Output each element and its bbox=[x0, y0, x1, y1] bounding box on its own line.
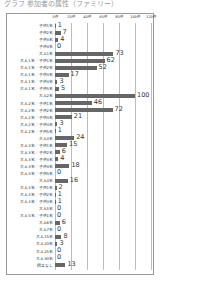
category-label: 大人1名／子供1名 bbox=[20, 57, 53, 64]
x-tick-label: 40件 bbox=[83, 14, 90, 19]
bar-row: 大人3名／子供3名4 bbox=[55, 156, 151, 163]
category-label: 子供1名 bbox=[39, 22, 53, 29]
category-label: 子供4名 bbox=[39, 43, 53, 50]
bar bbox=[55, 101, 92, 105]
bar-row: 大人5名0 bbox=[55, 205, 151, 212]
bar-row: 大人4名16 bbox=[55, 177, 151, 184]
value-label: 16 bbox=[70, 177, 78, 184]
gridline bbox=[151, 23, 152, 270]
bar bbox=[55, 80, 57, 84]
bar bbox=[55, 59, 105, 63]
value-label: 5 bbox=[61, 85, 65, 92]
value-label: 73 bbox=[115, 50, 123, 57]
bar bbox=[55, 108, 113, 112]
bar bbox=[55, 150, 60, 154]
category-label: 大人4名／子供1名 bbox=[20, 184, 53, 191]
category-label: 大人3名／子供2名 bbox=[20, 149, 53, 156]
bar-row: 大人4名／子供3名1 bbox=[55, 198, 151, 205]
category-label: 大人2名／子供5名 bbox=[20, 128, 53, 135]
bar-row: 大人2名／子供4名3 bbox=[55, 121, 151, 128]
value-label: 4 bbox=[60, 155, 64, 162]
value-label: 46 bbox=[94, 99, 102, 106]
category-label: 大人7名 bbox=[39, 226, 53, 233]
bar-row: 大人1名73 bbox=[55, 50, 151, 57]
bar-row: 大人3名／子供1名15 bbox=[55, 142, 151, 149]
bar-row: 大人20名3 bbox=[55, 240, 151, 247]
plot-area: 0件20件40件60件80件100件120件 子供1名1子供2名7子供3名4子供… bbox=[55, 20, 151, 270]
category-label: 大人3名 bbox=[39, 135, 53, 142]
bar bbox=[55, 31, 61, 35]
category-label: 大人6名 bbox=[39, 219, 53, 226]
value-label: 52 bbox=[99, 64, 107, 71]
bar-row: 大人1名／子供2名52 bbox=[55, 64, 151, 71]
bar-row: 子供4名0 bbox=[55, 43, 151, 50]
chart-title: グラフ 参加者の属性（ファミリー） bbox=[4, 0, 118, 8]
category-label: 子供3名 bbox=[39, 36, 53, 43]
value-label: 0 bbox=[57, 43, 61, 50]
value-label: 18 bbox=[71, 162, 79, 169]
bar-rows: 子供1名1子供2名7子供3名4子供4名0大人1名73大人1名／子供1名62大人1… bbox=[55, 22, 151, 269]
category-label: 大人1名／子供3名 bbox=[20, 71, 53, 78]
bar-row: 子供1名1 bbox=[55, 22, 151, 29]
x-tick-label: 60件 bbox=[99, 14, 106, 19]
category-label: 大人3名／子供3名 bbox=[20, 156, 53, 163]
bar-row: 子供2名7 bbox=[55, 29, 151, 36]
category-label: 大人3名／子供5名 bbox=[20, 170, 53, 177]
value-label: 0 bbox=[57, 212, 61, 219]
bar-row: 大人6名6 bbox=[55, 219, 151, 226]
value-label: 62 bbox=[107, 57, 115, 64]
category-label: 大人2名／子供2名 bbox=[20, 107, 53, 114]
category-label: 大人2名 bbox=[39, 92, 53, 99]
value-label: 0 bbox=[57, 254, 61, 261]
x-tick-label: 100件 bbox=[130, 14, 140, 19]
bar bbox=[55, 129, 56, 133]
category-label: 大人4名／子供3名 bbox=[20, 198, 53, 205]
value-label: 17 bbox=[71, 71, 79, 78]
bar-row: 大人4名／子供1名2 bbox=[55, 184, 151, 191]
bar-row: 子供3名4 bbox=[55, 36, 151, 43]
category-label: 大人4名／子供2名 bbox=[20, 191, 53, 198]
bar bbox=[55, 24, 56, 28]
value-label: 1 bbox=[58, 22, 62, 29]
value-label: 0 bbox=[57, 169, 61, 176]
bar bbox=[55, 52, 113, 56]
bar-row: 大人2名／子供3名21 bbox=[55, 114, 151, 121]
bar-row: 大人3名／子供4名18 bbox=[55, 163, 151, 170]
x-tick-label: 0件 bbox=[52, 14, 57, 19]
bar-row: 大人4名／子供2名1 bbox=[55, 191, 151, 198]
bar-row: 大人2名／子供5名1 bbox=[55, 128, 151, 135]
bar-row: 大人2名／子供1名46 bbox=[55, 100, 151, 107]
bar bbox=[55, 263, 65, 267]
bar bbox=[55, 157, 58, 161]
value-label: 15 bbox=[69, 141, 77, 148]
category-label: 大人20名 bbox=[36, 240, 53, 247]
category-label: 大人1名／子供5名 bbox=[20, 85, 53, 92]
bar-row: 大人2名／子供2名72 bbox=[55, 107, 151, 114]
value-label: 24 bbox=[76, 134, 84, 141]
bar-row: 大人3名／子供2名6 bbox=[55, 149, 151, 156]
bar-row: 回答なし13 bbox=[55, 262, 151, 269]
bar bbox=[55, 200, 56, 204]
category-label: 子供2名 bbox=[39, 29, 53, 36]
value-label: 1 bbox=[58, 127, 62, 134]
category-label: 大人30名 bbox=[36, 255, 53, 262]
category-label: 大人1名／子供4名 bbox=[20, 78, 53, 85]
value-label: 100 bbox=[137, 92, 149, 99]
category-label: 大人5名 bbox=[39, 205, 53, 212]
x-tick-label: 80件 bbox=[115, 14, 122, 19]
x-tick-label: 120件 bbox=[146, 14, 156, 19]
bar-row: 大人25名0 bbox=[55, 248, 151, 255]
category-label: 大人1名 bbox=[39, 50, 53, 57]
value-label: 21 bbox=[74, 113, 82, 120]
category-label: 大人15名 bbox=[36, 233, 53, 240]
category-label: 回答なし bbox=[37, 262, 53, 269]
category-label: 大人1名／子供2名 bbox=[20, 64, 53, 71]
category-label: 大人4名 bbox=[39, 177, 53, 184]
category-label: 大人5名／子供1名 bbox=[20, 212, 53, 219]
bar bbox=[55, 179, 68, 183]
category-label: 大人2名／子供1名 bbox=[20, 100, 53, 107]
bar-row: 大人5名／子供1名0 bbox=[55, 212, 151, 219]
value-label: 8 bbox=[63, 233, 67, 240]
value-label: 6 bbox=[62, 219, 66, 226]
bar-row: 大人7名0 bbox=[55, 226, 151, 233]
